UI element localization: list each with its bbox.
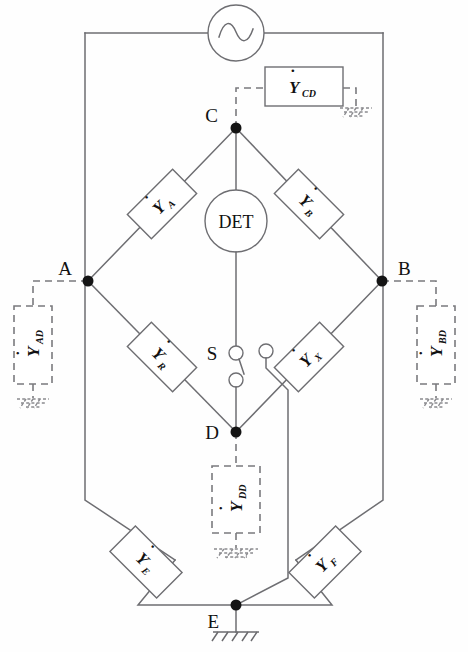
- guard-YDD: ˙ Y DD: [212, 432, 260, 558]
- outer-wire-right: [296, 33, 383, 560]
- guard-YBD-label: Y: [427, 345, 446, 357]
- node-dot-A: [83, 276, 94, 287]
- arm-YF: ˙ Y F: [236, 525, 361, 605]
- outer-wire-left: [85, 33, 175, 560]
- detector-branch: DET: [205, 128, 267, 346]
- guard-YBD-sub: BD: [437, 330, 448, 345]
- guard-YAD-sub: AD: [34, 330, 45, 345]
- switch-terminal-bridge[interactable]: [229, 373, 243, 387]
- node-dot-B: [377, 276, 388, 287]
- switch-blade[interactable]: [239, 359, 244, 374]
- ground-YBD: [420, 399, 452, 408]
- guard-YCD-sub: CD: [302, 88, 316, 99]
- circuit-diagram-canvas: ˙ Y A ˙ Y B ˙ Y R ˙ Y X: [0, 0, 468, 652]
- guard-YCD-label: Y: [289, 78, 301, 97]
- node-label-A: A: [58, 258, 72, 279]
- arm-YX: ˙ Y X: [236, 281, 382, 432]
- node-label-D: D: [205, 422, 219, 443]
- guard-YDD-body: [212, 466, 260, 533]
- guard-YAD-lead-in: [33, 281, 88, 306]
- guard-YAD-label: Y: [24, 345, 43, 357]
- node-dot-D: [231, 427, 242, 438]
- guard-YCD-lead-out: [343, 88, 356, 107]
- guard-YCD: ˙ Y CD: [236, 66, 372, 128]
- switch-terminal-ground[interactable]: [259, 344, 273, 358]
- switch-terminal-common[interactable]: [229, 346, 243, 360]
- node-label-B: B: [398, 258, 411, 279]
- guard-YDD-label: Y: [227, 500, 246, 512]
- guard-YBD-lead-in: [382, 281, 436, 306]
- guard-YBD-body: [417, 306, 455, 384]
- node-label-C: C: [205, 105, 218, 126]
- guard-YBD: ˙ Y BD: [382, 281, 455, 408]
- oscillator-source[interactable]: [208, 5, 264, 61]
- node-dot-E: [231, 600, 242, 611]
- guard-YCD-lead-in: [236, 88, 266, 128]
- ground-YCD: [340, 108, 372, 117]
- arm-YE: ˙ Y E: [110, 525, 236, 605]
- guard-YDD-sub: DD: [237, 485, 248, 500]
- guard-YAD-body: [14, 306, 52, 384]
- ground-YAD: [17, 399, 49, 408]
- ground-YDD: [214, 549, 258, 558]
- guard-YCD-body: [265, 67, 343, 106]
- guard-YAD: ˙ Y AD: [13, 281, 88, 408]
- detector-label: DET: [219, 212, 254, 232]
- node-dot-C: [231, 123, 242, 134]
- switch-label: S: [207, 343, 218, 364]
- node-label-E: E: [207, 611, 219, 632]
